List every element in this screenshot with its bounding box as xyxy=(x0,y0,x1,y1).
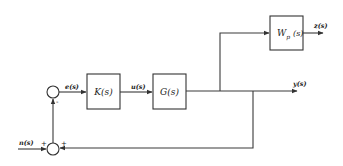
control-label: u(s) xyxy=(131,83,146,91)
noise-summing-junction xyxy=(47,143,59,155)
error-sum-sign: - xyxy=(56,98,59,106)
plant-label: G(s) xyxy=(160,87,179,97)
error-summing-junction xyxy=(47,86,59,98)
performance-branch-wire xyxy=(220,33,269,91)
noise-sum-sign-left: + xyxy=(41,140,47,148)
noise-label: n(s) xyxy=(19,139,34,147)
noise-sum-sign-right: + xyxy=(61,140,67,148)
error-label: e(s) xyxy=(65,83,79,91)
block-diagram: n(s) + + - e(s) K(s) u(s) G(s) y(s) Wp(s… xyxy=(0,0,343,166)
performance-label: z(s) xyxy=(313,22,328,30)
output-label: y(s) xyxy=(292,80,307,88)
controller-label: K(s) xyxy=(93,87,113,97)
